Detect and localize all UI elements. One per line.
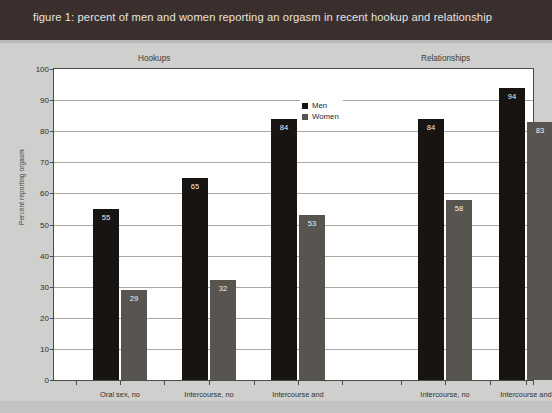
plot-box: 01020304050607080901005529Oral sex, noin…: [53, 68, 534, 381]
y-tick-mark: [50, 225, 54, 226]
y-tick-label: 70: [40, 158, 49, 167]
bar-value-label: 65: [182, 182, 208, 191]
women-swatch-icon: [302, 114, 308, 120]
x-tick-mark: [401, 380, 402, 385]
y-tick-label: 40: [40, 251, 49, 260]
group-header-relationships: Relationships: [421, 54, 470, 63]
figure-title: figure 1: percent of men and women repor…: [33, 11, 492, 23]
legend-item-women[interactable]: Women: [302, 111, 339, 122]
x-tick-mark: [254, 380, 255, 385]
y-tick-mark: [50, 256, 54, 257]
x-tick-mark: [120, 380, 121, 385]
y-tick-mark: [50, 349, 54, 350]
bar-men-1[interactable]: 65: [182, 178, 208, 380]
x-tick-mark: [342, 380, 343, 385]
x-tick-mark: [209, 380, 210, 385]
x-tick-mark: [164, 380, 165, 385]
bar-men-4[interactable]: 94: [499, 88, 525, 380]
legend-label-women: Women: [312, 112, 339, 121]
group-header-hookups: Hookups: [138, 54, 170, 63]
chart-legend: Men Women: [300, 99, 343, 124]
bar-women-2[interactable]: 53: [299, 215, 325, 380]
x-tick-mark: [526, 380, 527, 385]
bar-value-label: 58: [446, 204, 472, 213]
y-tick-label: 50: [40, 220, 49, 229]
y-tick-label: 60: [40, 189, 49, 198]
figure-root: figure 1: percent of men and women repor…: [0, 0, 552, 413]
y-axis-title: Percent reporting orgasm: [18, 149, 25, 225]
bar-women-1[interactable]: 32: [210, 280, 236, 380]
y-tick-mark: [50, 318, 54, 319]
y-tick-label: 30: [40, 282, 49, 291]
y-tick-mark: [50, 131, 54, 132]
y-tick-mark: [50, 69, 54, 70]
figure-title-band: figure 1: percent of men and women repor…: [0, 0, 552, 40]
bar-men-0[interactable]: 55: [93, 209, 119, 380]
y-tick-mark: [50, 193, 54, 194]
y-tick-label: 100: [36, 65, 49, 74]
bar-value-label: 94: [499, 92, 525, 101]
legend-item-men[interactable]: Men: [302, 100, 339, 111]
chart-area: Hookups Relationships Percent reporting …: [0, 43, 552, 413]
y-tick-label: 80: [40, 127, 49, 136]
y-tick-mark: [50, 287, 54, 288]
bar-value-label: 32: [210, 284, 236, 293]
y-tick-mark: [50, 162, 54, 163]
bar-women-3[interactable]: 58: [446, 200, 472, 380]
x-category-label-line: Oral sex, no: [72, 390, 168, 400]
bar-value-label: 53: [299, 219, 325, 228]
x-tick-mark: [298, 380, 299, 385]
x-tick-mark: [445, 380, 446, 385]
bar-value-label: 55: [93, 213, 119, 222]
bar-women-0[interactable]: 29: [121, 290, 147, 380]
bar-value-label: 84: [271, 123, 297, 132]
y-tick-label: 10: [40, 344, 49, 353]
y-tick-mark: [50, 380, 54, 381]
x-category-label-line: Intercourse and: [478, 390, 552, 400]
x-tick-mark: [533, 380, 534, 385]
x-tick-mark: [490, 380, 491, 385]
x-category-label-line: Intercourse and: [250, 390, 346, 400]
x-tick-mark: [76, 380, 77, 385]
bar-men-3[interactable]: 84: [418, 119, 444, 380]
legend-label-men: Men: [312, 101, 327, 110]
y-tick-label: 90: [40, 96, 49, 105]
bar-value-label: 84: [418, 123, 444, 132]
bar-men-2[interactable]: 84: [271, 119, 297, 380]
gridline: [54, 100, 533, 101]
bar-value-label: 29: [121, 294, 147, 303]
x-category-label-line: Intercourse, no: [161, 390, 257, 400]
page-bottom-margin: [0, 401, 552, 413]
y-tick-label: 20: [40, 313, 49, 322]
y-tick-label: 0: [45, 376, 49, 385]
bar-women-4[interactable]: 83: [527, 122, 552, 380]
y-tick-mark: [50, 100, 54, 101]
bar-value-label: 83: [527, 126, 552, 135]
men-swatch-icon: [302, 103, 308, 109]
